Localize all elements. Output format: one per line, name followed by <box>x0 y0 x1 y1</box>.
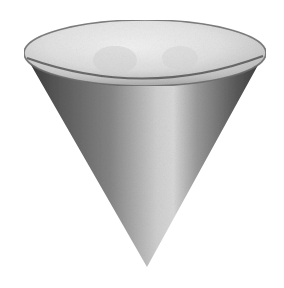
cone-body <box>27 56 263 267</box>
image-canvas <box>0 0 284 288</box>
cone-illustration <box>0 0 284 288</box>
cone-rim <box>24 20 266 86</box>
